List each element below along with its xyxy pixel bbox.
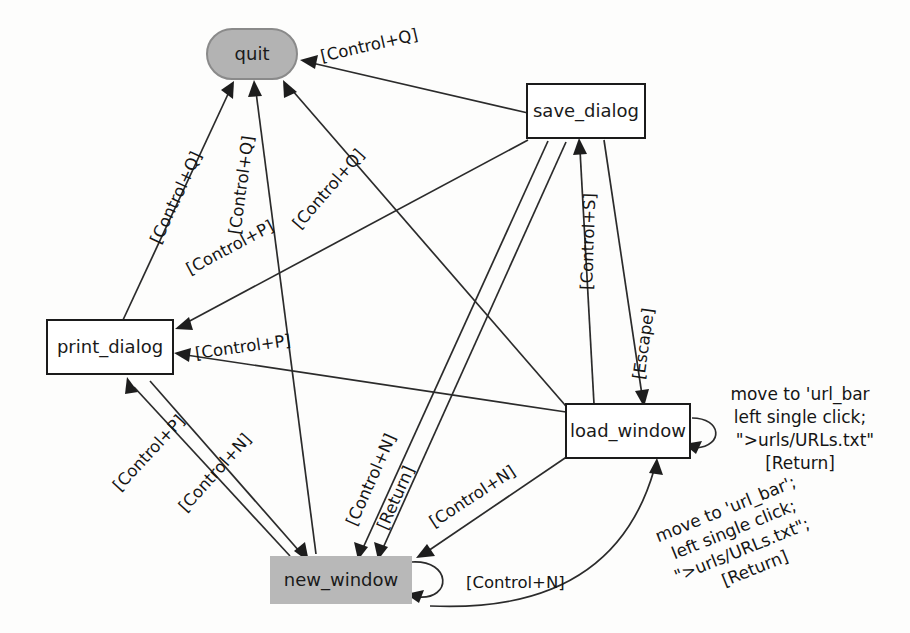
edge-label-new-to-load-block: move to 'url_bar'; left single click; ">… bbox=[652, 472, 823, 608]
edge-line bbox=[292, 90, 578, 420]
node-load_window[interactable]: load_window bbox=[566, 404, 690, 458]
edge-label-ctrl-s: [Control+S] bbox=[577, 193, 599, 290]
arrow-head-icon bbox=[175, 317, 193, 330]
load-self-line-1: move to 'url_bar bbox=[730, 384, 869, 405]
arrow-head-icon bbox=[300, 55, 318, 69]
node-load_window-label: load_window bbox=[570, 420, 686, 442]
edge-label-ctrl-q-save: [Control+Q] bbox=[319, 25, 420, 66]
node-print_dialog-label: print_dialog bbox=[57, 336, 163, 358]
arrow-head-icon bbox=[416, 544, 435, 558]
edge-label-load-self-block: move to 'url_bar left single click; ">ur… bbox=[730, 384, 874, 473]
arrow-head-icon bbox=[573, 138, 587, 155]
edge-label-escape: [Escape] bbox=[629, 307, 658, 381]
node-new_window-label: new_window bbox=[284, 569, 399, 591]
arrow-head-icon bbox=[283, 80, 297, 98]
edge-print_dialog-new_window bbox=[150, 381, 309, 562]
node-new_window[interactable]: new_window bbox=[270, 556, 412, 604]
edge-save_dialog-new_window-ctrln bbox=[354, 141, 548, 560]
edge-line bbox=[186, 355, 566, 412]
edge-label-ctrl-p-load: [Control+P] bbox=[194, 331, 292, 363]
node-quit-label: quit bbox=[235, 43, 270, 64]
load-self-line-3: ">urls/URLs.txt" bbox=[736, 430, 874, 450]
node-save_dialog[interactable]: save_dialog bbox=[527, 84, 645, 138]
edge-save_dialog-quit bbox=[300, 55, 528, 113]
load-self-line-4: [Return] bbox=[765, 453, 835, 473]
node-save_dialog-label: save_dialog bbox=[533, 100, 639, 122]
edge-label-ctrl-p-new: [Control+P] bbox=[109, 411, 189, 494]
edge-line bbox=[312, 63, 528, 113]
edge-label-ctrl-n-self: [Control+N] bbox=[466, 573, 565, 592]
node-print_dialog[interactable]: print_dialog bbox=[47, 320, 173, 374]
node-quit[interactable]: quit bbox=[207, 29, 297, 79]
arrow-head-icon bbox=[125, 377, 138, 394]
state-diagram: quit save_dialog print_dialog load_windo… bbox=[0, 0, 910, 633]
edge-new_window-quit bbox=[248, 80, 316, 554]
graph-canvas: quit save_dialog print_dialog load_windo… bbox=[0, 0, 910, 633]
edge-label-ctrl-q-new: [Control+Q] bbox=[225, 135, 258, 236]
edge-label-ctrl-n-print: [Control+N] bbox=[175, 430, 255, 516]
load-self-line-2: left single click; bbox=[734, 407, 866, 427]
edge-label-ctrl-q-load: [Control+Q] bbox=[289, 145, 369, 232]
arrow-head-icon bbox=[174, 348, 191, 362]
arrow-head-icon bbox=[649, 458, 663, 475]
edge-label-ctrl-q-print: [Control+Q] bbox=[146, 149, 205, 247]
edge-line bbox=[256, 92, 316, 554]
arrow-head-icon bbox=[248, 80, 262, 97]
